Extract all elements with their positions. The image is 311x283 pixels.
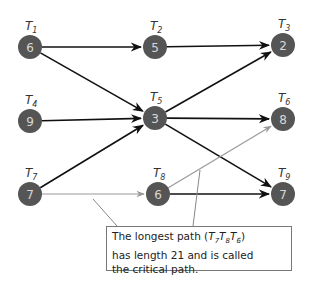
edge-T5-T6 xyxy=(167,118,269,119)
edge-T7-T5 xyxy=(40,125,143,187)
node-T9: 7T9 xyxy=(271,166,295,206)
node-T5: 3T5 xyxy=(143,90,167,130)
node-value: 2 xyxy=(279,39,287,53)
node-value: 8 xyxy=(279,113,287,127)
edge-T5-T3 xyxy=(165,52,270,112)
callout-line1: The longest path (T7T8T6) xyxy=(112,230,245,242)
edge-T4-T5 xyxy=(42,118,141,120)
node-T8: 6T8 xyxy=(146,166,170,206)
node-label: T2 xyxy=(150,19,162,35)
node-value: 6 xyxy=(26,41,34,55)
node-label: T5 xyxy=(150,90,162,106)
node-value: 3 xyxy=(151,112,159,126)
node-label: T3 xyxy=(278,17,290,33)
node-T1: 6T1 xyxy=(18,19,42,59)
node-T2: 5T2 xyxy=(143,19,167,59)
node-value: 7 xyxy=(26,188,34,202)
node-value: 5 xyxy=(151,41,159,55)
node-T4: 9T4 xyxy=(18,93,42,133)
edge-T2-T3 xyxy=(167,45,269,47)
node-T7: 7T7 xyxy=(18,166,42,206)
node-label: T4 xyxy=(25,93,37,109)
node-T3: 2T3 xyxy=(271,17,295,57)
node-T6: 8T6 xyxy=(271,91,295,131)
callout-line3: the critical path. xyxy=(112,263,198,275)
node-label: T9 xyxy=(278,166,290,182)
node-label: T7 xyxy=(25,166,38,182)
node-value: 7 xyxy=(279,188,287,202)
node-label: T1 xyxy=(25,19,37,35)
edge-T1-T5 xyxy=(40,53,142,111)
node-label: T8 xyxy=(153,166,165,182)
node-value: 9 xyxy=(26,115,34,129)
critical-path-callout: The longest path (T7T8T6) has length 21 … xyxy=(106,226,292,271)
callout-line2: has length 21 and is called xyxy=(112,249,253,261)
edge-T5-T9 xyxy=(165,124,271,187)
node-value: 6 xyxy=(154,188,162,202)
node-label: T6 xyxy=(278,91,290,107)
